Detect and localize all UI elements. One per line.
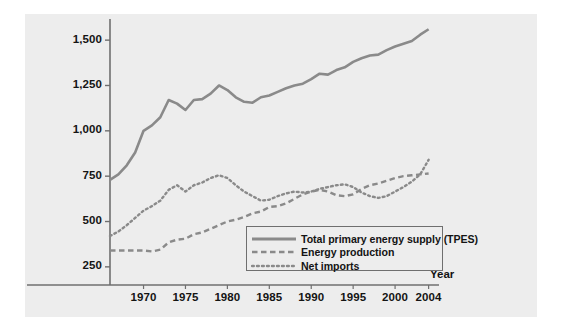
legend-item-label: Net imports (301, 260, 359, 272)
legend-line-swatch-dotted (247, 259, 301, 273)
y-axis-tick-label: 500 (46, 214, 102, 226)
y-axis-tick-label: 1,250 (46, 78, 102, 90)
legend-item-label: Energy production (301, 246, 394, 258)
chart-figure: 2505007501,0001,2501,500 197019751980198… (0, 0, 562, 331)
series-line (110, 160, 429, 236)
series-line (110, 29, 429, 180)
x-axis-tick-label: 1980 (205, 291, 249, 303)
legend-item-label: Total primary energy supply (TPES) (301, 233, 478, 245)
legend-line-swatch-solid (247, 232, 301, 246)
legend-line-swatch-dashed (247, 245, 301, 259)
x-axis-tick-label: 1985 (247, 291, 291, 303)
legend-item: Net imports (247, 258, 442, 273)
x-axis-tick-label: 1970 (122, 291, 166, 303)
x-axis-tick-label: 1990 (289, 291, 333, 303)
x-axis-tick-label: 1995 (331, 291, 375, 303)
y-axis-tick-label: 750 (46, 169, 102, 181)
chart-legend: Total primary energy supply (TPES)Energy… (246, 226, 443, 271)
y-axis-tick-label: 1,000 (46, 123, 102, 135)
x-axis-tick-label: 2004 (407, 291, 451, 303)
chart-plot-area (0, 0, 562, 331)
y-axis-tick-label: 1,500 (46, 33, 102, 45)
y-axis-tick-label: 250 (46, 259, 102, 271)
x-axis-tick-label: 1975 (163, 291, 207, 303)
